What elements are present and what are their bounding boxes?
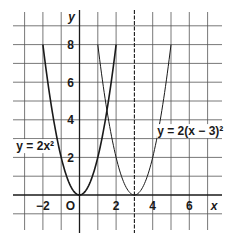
- parabola-graph: −2O2462468 x y y = 2x²y = 2(x − 3)²: [0, 0, 234, 241]
- x-tick-label: O: [66, 199, 75, 213]
- curve-label-y-2-x-minus-3-squared: y = 2(x − 3)²: [157, 124, 223, 138]
- x-tick-label: 4: [149, 199, 156, 213]
- curve-label-y-2x2: y = 2x²: [16, 139, 54, 153]
- y-tick-label: 6: [67, 76, 74, 90]
- y-tick-label: 8: [67, 38, 74, 52]
- y-tick-label: 2: [67, 151, 74, 165]
- y-axis-label: y: [67, 10, 76, 24]
- x-tick-label: 2: [113, 199, 120, 213]
- x-axis-label: x: [210, 199, 219, 213]
- x-tick-label: 6: [186, 199, 193, 213]
- y-tick-label: 4: [67, 113, 74, 127]
- x-tick-label: −2: [36, 199, 50, 213]
